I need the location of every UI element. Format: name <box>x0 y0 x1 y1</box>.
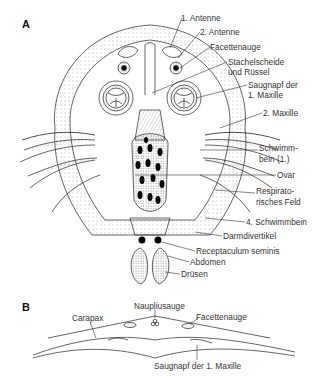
label-ovar: Ovar <box>277 171 295 181</box>
label-2-maxille: 2. Maxille <box>263 109 298 119</box>
label-abdomen: Abdomen <box>190 258 226 268</box>
label-1-antenne: 1. Antenne <box>181 14 221 24</box>
label-receptaculum-seminis: Receptaculum seminis <box>196 247 279 257</box>
label-bein-1: bein (1.) <box>259 155 289 165</box>
label-und-ruessel: und Rüssel <box>228 68 270 78</box>
label-schwimm: Schwimm- <box>259 144 298 154</box>
abdomen-right-lobe <box>152 248 169 284</box>
label-druesen: Drüsen <box>181 270 208 280</box>
abdomen-left-lobe <box>131 248 148 284</box>
label-naupliusauge: Nauplius­auge <box>134 302 185 312</box>
label-carapax: Carapax <box>72 314 103 324</box>
label-saugnapf-1-maxille-b: Saugnapf der 1. Maxille <box>154 362 241 372</box>
label-1-maxille: 1. Maxille <box>248 91 283 101</box>
left-sucker <box>99 81 133 115</box>
label-2-antenne: 2. Antenne <box>200 28 240 38</box>
label-risches-feld: risches Feld <box>256 198 301 208</box>
label-facettenauge: Facettenauge <box>210 43 261 53</box>
label-respirato: Respirato- <box>256 187 294 197</box>
label-facettenauge-b: Facettenauge <box>196 313 247 323</box>
label-darmdivertikel: Darmdivertikel <box>223 232 276 242</box>
right-sucker <box>167 81 201 115</box>
label-4-schwimmbein: 4. Schwimmbein <box>246 218 307 228</box>
